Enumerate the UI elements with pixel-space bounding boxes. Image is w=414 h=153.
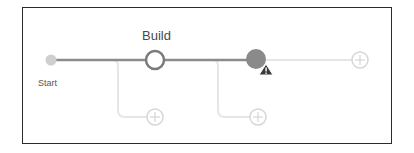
add-stage-end-button[interactable] — [352, 52, 368, 68]
warning-stage-button[interactable] — [246, 49, 274, 76]
stage-label-build: Build — [142, 28, 171, 43]
start-label: Start — [38, 78, 57, 88]
start-node — [46, 55, 57, 66]
pipeline-graph — [0, 0, 414, 153]
add-parallel-stage2-button[interactable] — [250, 109, 266, 125]
build-stage-button[interactable] — [146, 51, 164, 69]
branch-connector-1 — [113, 60, 148, 117]
add-parallel-build-button[interactable] — [147, 109, 163, 125]
